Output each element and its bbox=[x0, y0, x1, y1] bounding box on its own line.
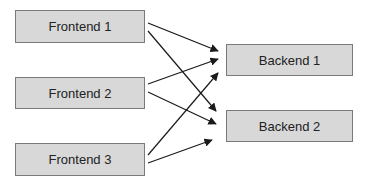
node-label: Frontend 3 bbox=[49, 152, 112, 167]
node-frontend-1: Frontend 1 bbox=[15, 10, 145, 43]
node-label: Frontend 2 bbox=[49, 86, 112, 101]
node-backend-1: Backend 1 bbox=[226, 44, 353, 76]
edge-frontend-1-to-backend-2 bbox=[148, 31, 216, 111]
edge-frontend-2-to-backend-2 bbox=[148, 92, 216, 124]
edge-frontend-2-to-backend-1 bbox=[148, 59, 218, 84]
node-frontend-2: Frontend 2 bbox=[15, 77, 145, 109]
node-backend-2: Backend 2 bbox=[226, 110, 353, 142]
node-frontend-3: Frontend 3 bbox=[15, 143, 145, 176]
edge-frontend-1-to-backend-1 bbox=[148, 23, 218, 51]
node-label: Frontend 1 bbox=[49, 19, 112, 34]
edge-frontend-3-to-backend-1 bbox=[148, 73, 218, 155]
node-label: Backend 1 bbox=[259, 53, 320, 68]
node-label: Backend 2 bbox=[259, 119, 320, 134]
